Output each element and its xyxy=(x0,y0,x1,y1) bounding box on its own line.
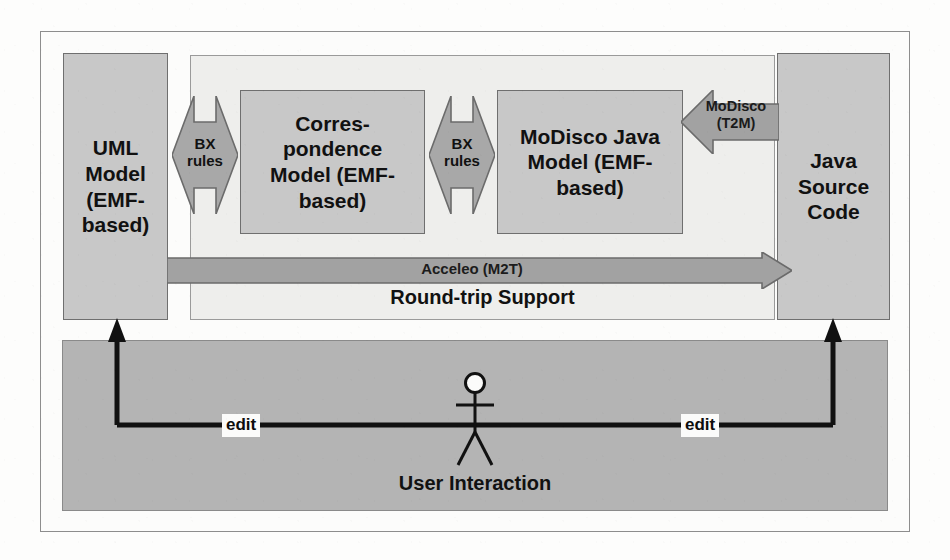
user-actor-icon xyxy=(440,370,510,470)
uml-model-label: UMLModel(EMF-based) xyxy=(82,135,150,237)
bx-rules-label-left: BXrules xyxy=(172,135,238,170)
uml-model-box: UMLModel(EMF-based) xyxy=(63,53,168,320)
diagram-canvas: UMLModel(EMF-based) Corres-pondenceModel… xyxy=(0,0,950,560)
modisco-java-model-label: MoDisco JavaModel (EMF-based) xyxy=(520,124,660,201)
round-trip-support-label: Round-trip Support xyxy=(190,286,775,309)
correspondence-model-label: Corres-pondenceModel (EMF-based) xyxy=(270,111,395,213)
edit-label-right: edit xyxy=(681,414,719,437)
user-interaction-label: User Interaction xyxy=(355,472,595,495)
acceleo-m2t-label: Acceleo (M2T) xyxy=(167,260,777,277)
correspondence-model-box: Corres-pondenceModel (EMF-based) xyxy=(240,90,425,234)
modisco-java-model-box: MoDisco JavaModel (EMF-based) xyxy=(497,90,683,234)
java-source-code-box: JavaSourceCode xyxy=(777,53,890,320)
bx-rules-label-right: BXrules xyxy=(429,135,495,170)
edit-label-left: edit xyxy=(222,414,260,437)
modisco-t2m-label: MoDisco(T2M) xyxy=(693,98,779,133)
java-source-code-label: JavaSourceCode xyxy=(798,148,869,225)
